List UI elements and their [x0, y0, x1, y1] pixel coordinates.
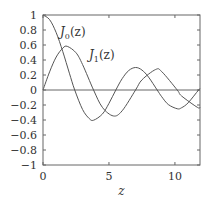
- curve-label-j0: J0(z): [57, 25, 86, 41]
- x-tick-label: 0: [40, 170, 47, 183]
- y-tick-label: −0.4: [10, 114, 37, 127]
- y-tick-label: −0.2: [10, 99, 37, 112]
- x-axis-label: z: [117, 184, 125, 198]
- y-tick-label: 0: [30, 84, 37, 97]
- y-tick-label: −0.8: [10, 144, 37, 157]
- y-tick-label: 0.4: [20, 54, 38, 67]
- x-tick-label: 5: [105, 170, 112, 183]
- x-tick-labels: 0510: [40, 170, 182, 183]
- bessel-chart: 10.80.60.40.20−0.2−0.4−0.6−0.8−1 0510 z …: [0, 0, 209, 203]
- curve-label-j1: J1(z): [86, 48, 115, 64]
- y-tick-label: −1: [21, 159, 37, 172]
- x-tick-label: 10: [168, 170, 182, 183]
- y-tick-labels: 10.80.60.40.20−0.2−0.4−0.6−0.8−1: [10, 9, 37, 172]
- curve-j1z: [43, 46, 200, 116]
- y-tick-label: 0.8: [20, 24, 38, 37]
- y-tick-label: 0.6: [20, 39, 38, 52]
- y-tick-label: 1: [30, 9, 37, 22]
- curves: [43, 15, 200, 121]
- curve-j0z: [43, 15, 200, 121]
- y-tick-label: −0.6: [10, 129, 37, 142]
- y-tick-label: 0.2: [20, 69, 38, 82]
